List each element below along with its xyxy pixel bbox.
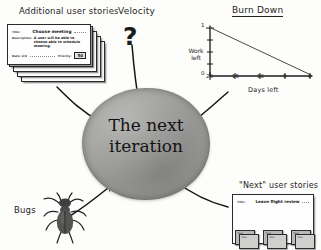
task-box-3-front: Task xyxy=(295,234,315,249)
diagram-canvas: Additional user stories Velocity ? Burn … xyxy=(0,0,321,250)
next-iteration-line2: iteration xyxy=(82,136,210,157)
burn-down-ytick-0: 0 xyxy=(201,70,205,76)
burn-down-y-axis-label: Work left xyxy=(186,48,206,62)
card-description-row: Description: A user will be able to choo… xyxy=(12,36,86,49)
burn-down-xtick-15: 15 xyxy=(232,73,239,79)
next-card-rule xyxy=(302,199,309,203)
heading-next-user-stories: "Next" user stories xyxy=(239,181,318,190)
bug-icon xyxy=(38,188,92,244)
next-card-title-tag: Title: xyxy=(237,200,245,204)
card-title-value: Choose meeting xyxy=(32,29,71,34)
velocity-question-mark: ? xyxy=(123,24,138,49)
burn-down-ytick-1: 1 xyxy=(201,22,205,28)
card-meta-row: Date: 2/6 Priority: 50 xyxy=(12,52,86,59)
next-user-story-card: Title: Leave flight review Title: Task T… xyxy=(232,194,314,244)
task-box-2: Title: Task xyxy=(263,230,288,249)
burn-down-xtick-20: 20 xyxy=(206,73,213,79)
task-box-2-label: Task xyxy=(268,235,286,240)
heading-bugs: Bugs xyxy=(14,205,36,215)
task-box-3-label: Task xyxy=(296,235,314,240)
burn-down-xtick-10: 10 xyxy=(257,73,264,79)
user-story-card: Title: Choose meeting Description: A use… xyxy=(7,24,91,65)
burn-down-chart: Work left Days left 1 0 20 15 10 5 0 xyxy=(186,18,318,96)
next-card-title-value: Leave flight review xyxy=(255,199,299,204)
card-rule xyxy=(74,29,86,33)
next-iteration-line1: The next xyxy=(82,115,210,136)
next-iteration-label: The next iteration xyxy=(82,115,210,158)
task-box-3: Title: Task xyxy=(291,230,316,249)
card-estimate-box: 50 xyxy=(74,52,86,59)
heading-additional-user-stories: Additional user stories xyxy=(19,6,119,16)
card-date-tag: Date: 2/6 xyxy=(12,54,27,58)
card-description-value: A user will be able to choose able to sc… xyxy=(34,36,86,49)
next-iteration-blob: The next iteration xyxy=(82,88,210,200)
card-title-row: Title: Choose meeting xyxy=(12,29,86,34)
next-card-title-row: Title: Leave flight review xyxy=(237,199,309,204)
burn-down-x-axis-label: Days left xyxy=(248,86,279,94)
task-box-1: Title: Task xyxy=(235,230,260,249)
heading-velocity: Velocity xyxy=(118,6,155,16)
task-box-2-front: Task xyxy=(267,234,287,249)
burn-down-line xyxy=(211,28,311,75)
task-box-1-label: Task xyxy=(240,235,258,240)
card-title-tag: Title: xyxy=(12,30,20,34)
card-rule-2 xyxy=(30,53,55,57)
user-story-card-stack: Title: Choose meeting Description: A use… xyxy=(7,24,110,90)
card-priority-tag: Priority: xyxy=(58,54,71,58)
card-description-tag: Description: xyxy=(12,36,32,40)
task-box-1-front: Task xyxy=(239,234,259,249)
task-box-group: Title: Task Title: Task Title: T xyxy=(235,230,316,249)
heading-burn-down: Burn Down xyxy=(232,5,283,17)
burn-down-xtick-5: 5 xyxy=(283,73,287,79)
burn-down-xtick-0: 0 xyxy=(308,73,312,79)
